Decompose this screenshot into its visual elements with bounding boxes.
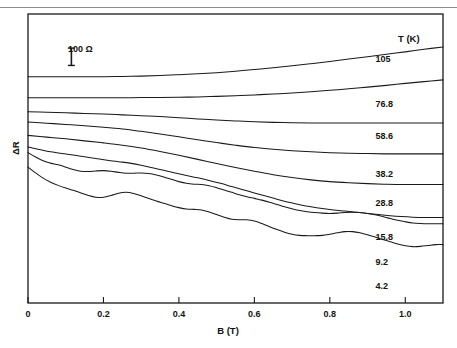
series-lines xyxy=(28,47,443,247)
scale-bar-label: 100 Ω xyxy=(68,44,93,54)
series-line-9.2 xyxy=(28,153,443,224)
series-label-58.6: 58.6 xyxy=(376,131,394,141)
series-label-28.8: 28.8 xyxy=(376,198,394,208)
x-tick-label: 1.0 xyxy=(399,309,412,319)
series-column-header-text: T (K) xyxy=(398,33,420,44)
series-line-76.8 xyxy=(28,80,443,98)
x-tick-label: 0.8 xyxy=(324,309,337,319)
series-label-76.8: 76.8 xyxy=(376,99,394,109)
scale-bar-label-text: 100 Ω xyxy=(68,44,93,54)
series-label-15.8: 15.8 xyxy=(376,232,394,242)
x-tick-label: 0.2 xyxy=(97,309,110,319)
x-axis-title-text: B (T) xyxy=(217,325,239,336)
series-label-38.2: 38.2 xyxy=(376,169,394,179)
x-axis-ticks xyxy=(28,297,405,303)
series-label-105: 105 xyxy=(376,54,391,64)
figure-magnetoresistance-plot: ΔR B (T) 100 Ω T (K) 00.20.40.60.81.0 10… xyxy=(0,0,457,348)
y-axis-title-text: ΔR xyxy=(10,141,21,155)
x-tick-label: 0.4 xyxy=(173,309,186,319)
series-column-header: T (K) xyxy=(398,33,420,44)
x-axis-title: B (T) xyxy=(217,325,239,336)
x-tick-label: 0.6 xyxy=(248,309,261,319)
x-tick-label: 0 xyxy=(25,309,30,319)
series-label-9.2: 9.2 xyxy=(376,257,389,267)
series-label-4.2: 4.2 xyxy=(376,281,389,291)
y-axis-title: ΔR xyxy=(10,141,21,155)
series-line-58.6 xyxy=(28,112,443,123)
